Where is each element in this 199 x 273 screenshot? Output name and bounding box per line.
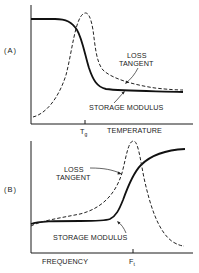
panel-a-storage-leader [114, 92, 124, 103]
panel-b-storage-label: STORAGE MODULUS [53, 233, 128, 242]
panel-a-label: (A) [4, 46, 17, 55]
panel-b-storage-modulus-curve [31, 149, 185, 224]
panel-a-loss-label-line2: TANGENT [119, 59, 154, 68]
panel-b-loss-leader [90, 168, 120, 173]
panel-b-label: (B) [4, 185, 17, 194]
panel-b-loss-tangent-curve [31, 141, 184, 246]
panel-b: (B) LOSS TANGENT STORAGE MODULUS FREQUEN… [4, 141, 193, 267]
viscoelastic-diagram: (A) LOSS TANGENT STORAGE MODULUS Tg TEMP… [0, 0, 199, 273]
panel-b-loss-arrowhead [118, 172, 123, 175]
panel-b-tick-label: Ft [129, 257, 136, 267]
panel-a: (A) LOSS TANGENT STORAGE MODULUS Tg TEMP… [4, 5, 193, 137]
panel-b-loss-label-line2: TANGENT [56, 173, 91, 182]
panel-a-loss-tangent-curve [33, 13, 183, 117]
panel-a-storage-label: STORAGE MODULUS [89, 103, 164, 112]
panel-a-tick-label: Tg [80, 127, 88, 137]
panel-a-storage-modulus-curve [31, 19, 183, 92]
panel-a-x-axis-label: TEMPERATURE [107, 126, 162, 135]
panel-a-loss-leader [126, 68, 138, 83]
panel-b-x-axis-label: FREQUENCY [42, 257, 88, 266]
